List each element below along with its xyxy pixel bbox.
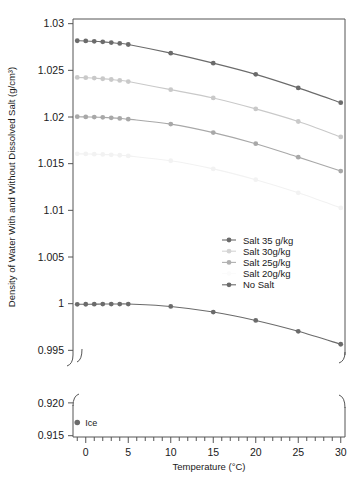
ice-data-point [74, 420, 80, 426]
data-point-marker [296, 85, 301, 90]
legend-item-salt-20g-kg[interactable]: Salt 20g/kg [222, 268, 291, 279]
data-point-marker [211, 310, 216, 315]
data-point-marker [338, 169, 343, 174]
x-tick-label: 30 [335, 446, 347, 458]
legend-swatch-marker [227, 249, 232, 254]
data-point-marker [117, 116, 122, 121]
legend-item-label: Salt 35 g/kg [243, 235, 293, 246]
upper-y-tick-label: 1.015 [38, 157, 64, 169]
data-point-marker [211, 61, 216, 66]
axis-break-upper-right [339, 352, 345, 363]
data-point-marker [338, 100, 343, 105]
series-no-salt: IceSalt 35 g/kgSalt 30g/kgSalt 25g/kgSal… [74, 235, 343, 428]
data-point-marker [338, 135, 343, 140]
y-axis-title: Density of Water With and Without Dissol… [6, 67, 17, 307]
data-point-marker [126, 302, 131, 307]
data-point-marker [253, 106, 258, 111]
legend-swatch-marker [227, 271, 232, 276]
data-point-marker [168, 158, 173, 163]
data-point-marker [100, 39, 105, 44]
x-tick-label: 0 [83, 446, 89, 458]
legend-swatch-marker [227, 282, 232, 287]
data-point-marker [117, 153, 122, 158]
upper-panel-axes: 0.99511.0051.011.0151.021.0251.030.9150.… [6, 17, 347, 472]
data-point-marker [126, 79, 131, 84]
legend-item-salt-35-g-kg[interactable]: Salt 35 g/kg [222, 235, 293, 246]
series-salt-20g-kg [75, 151, 343, 210]
legend-item-label: No Salt [243, 279, 275, 290]
upper-y-tick-label: 1.03 [44, 17, 65, 29]
series-salt-30g-kg [75, 75, 343, 139]
series-line [77, 77, 341, 137]
legend-item-salt-25g-kg[interactable]: Salt 25g/kg [222, 257, 291, 268]
data-point-marker [100, 115, 105, 120]
data-point-marker [100, 76, 105, 81]
data-point-marker [211, 166, 216, 171]
axis-break-lower-right [339, 395, 345, 408]
legend: Salt 35 g/kgSalt 30g/kgSalt 25g/kgSalt 2… [222, 235, 293, 291]
upper-y-tick-label: 1 [58, 297, 64, 309]
series-line [77, 154, 341, 208]
data-point-marker [83, 75, 88, 80]
data-point-marker [109, 152, 114, 157]
data-point-marker [75, 302, 80, 307]
data-point-marker [92, 115, 97, 120]
legend-item-label: Salt 30g/kg [243, 246, 291, 257]
axis-break-upper-left-inner [77, 349, 82, 362]
lower-y-tick-label: 0.920 [38, 397, 64, 409]
data-point-marker [117, 41, 122, 46]
data-point-marker [92, 76, 97, 81]
data-point-marker [100, 152, 105, 157]
data-point-marker [75, 75, 80, 80]
x-axis-title: Temperature (°C) [173, 461, 246, 472]
series-line [77, 117, 341, 171]
data-point-marker [296, 155, 301, 160]
data-point-marker [168, 122, 173, 127]
legend-swatch-marker [227, 260, 232, 265]
data-point-marker [126, 154, 131, 159]
data-point-marker [109, 77, 114, 82]
upper-y-tick-label: 1.02 [44, 111, 65, 123]
data-point-marker [253, 177, 258, 182]
legend-item-no-salt[interactable]: No Salt [222, 279, 275, 290]
data-point-marker [92, 152, 97, 157]
data-point-marker [211, 130, 216, 135]
density-vs-temperature-chart: 0.99511.0051.011.0151.021.0251.030.9150.… [0, 0, 364, 488]
chart-canvas: 0.99511.0051.011.0151.021.0251.030.9150.… [0, 0, 364, 488]
data-point-marker [117, 78, 122, 83]
data-point-marker [253, 318, 258, 323]
series-line [77, 304, 341, 344]
data-point-marker [126, 117, 131, 122]
series-salt-35-g-kg [75, 38, 343, 105]
data-point-marker [83, 39, 88, 44]
data-point-marker [338, 206, 343, 211]
legend-item-label: Salt 25g/kg [243, 257, 291, 268]
data-point-marker [109, 40, 114, 45]
series-layer: IceSalt 35 g/kgSalt 30g/kgSalt 25g/kgSal… [74, 38, 343, 428]
lower-y-tick-label: 0.915 [38, 429, 64, 441]
data-point-marker [83, 115, 88, 120]
data-point-marker [168, 87, 173, 92]
data-point-marker [338, 342, 343, 347]
data-point-marker [92, 39, 97, 44]
upper-y-tick-label: 0.995 [38, 344, 64, 356]
legend-swatch-marker [227, 238, 232, 243]
annotations-layer: IceSalt 35 g/kgSalt 30g/kgSalt 25g/kgSal… [74, 235, 293, 428]
upper-y-tick-label: 1.01 [44, 204, 65, 216]
x-tick-label: 25 [292, 446, 304, 458]
data-point-marker [75, 151, 80, 156]
legend-item-label: Salt 20g/kg [243, 268, 291, 279]
data-point-marker [168, 304, 173, 309]
legend-item-salt-30g-kg[interactable]: Salt 30g/kg [222, 246, 291, 257]
series-line [77, 41, 341, 103]
data-point-marker [117, 302, 122, 307]
data-point-marker [296, 190, 301, 195]
upper-y-tick-label: 1.005 [38, 251, 64, 263]
axis-break-lower-left [73, 394, 79, 406]
axis-break-upper-left [67, 355, 73, 366]
data-point-marker [211, 96, 216, 101]
data-point-marker [100, 302, 105, 307]
upper-y-tick-label: 1.025 [38, 64, 64, 76]
data-point-marker [253, 72, 258, 77]
data-point-marker [253, 141, 258, 146]
